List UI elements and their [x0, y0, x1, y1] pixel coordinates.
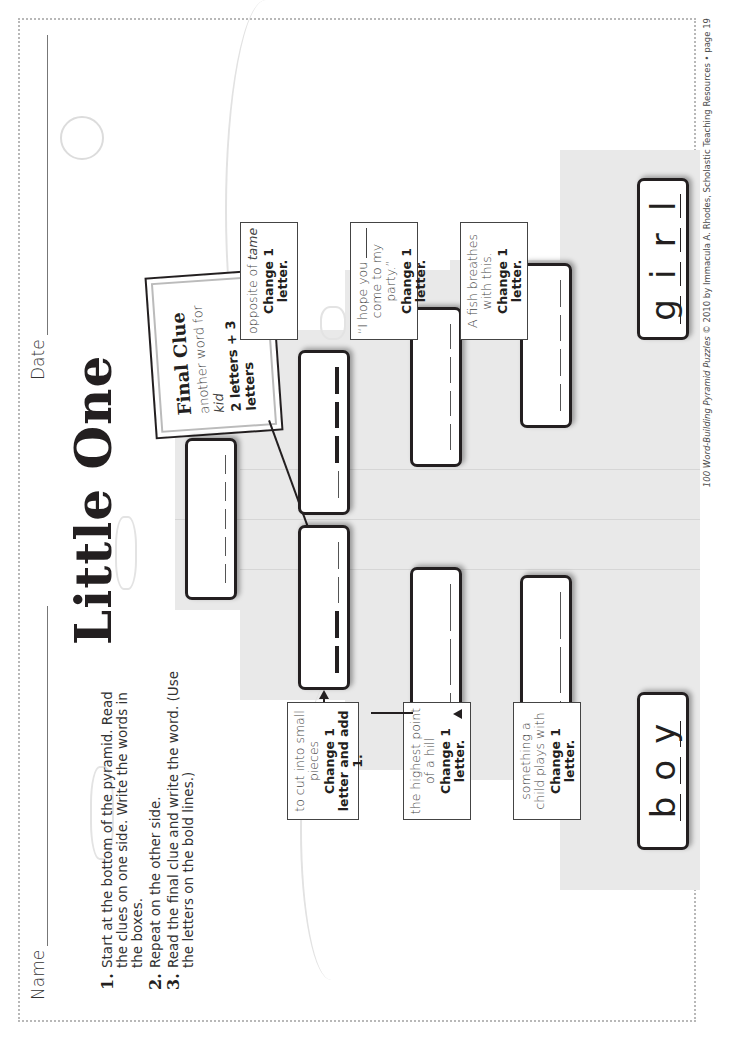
- sun-drawing: [60, 116, 104, 160]
- arrow-head-icon: [453, 709, 462, 719]
- letter-blank-bold: [335, 612, 339, 639]
- step-text: Repeat on the other side.: [148, 796, 163, 968]
- letter-blank: [338, 542, 339, 569]
- letter-blank: [225, 455, 226, 474]
- clue-text: “I hope you come to my party.”: [356, 227, 398, 335]
- start-letter: i: [646, 262, 681, 286]
- letter-blank-bold: [335, 367, 339, 394]
- name-line: [47, 606, 48, 946]
- start-letter: o: [646, 757, 681, 784]
- footer-book: 100 Word-Building Pyramid Puzzles: [702, 336, 712, 487]
- letter-blank: [560, 384, 561, 411]
- final-clue-text-emphasis: kid: [211, 393, 227, 413]
- letter-blank: [450, 358, 451, 384]
- clue-rule: Change 1 letter.: [400, 227, 428, 335]
- instruction-step: 1. Start at the bottom of the pyramid. R…: [100, 670, 145, 990]
- clue-box-right-row3: A fish breathes with this. Change 1 lett…: [460, 222, 528, 340]
- date-label: Date: [28, 339, 48, 380]
- instruction-step: 3. Read the final clue and write the wor…: [166, 670, 196, 990]
- letter-blank: [225, 509, 226, 528]
- letter-blank: [450, 391, 451, 417]
- start-letter: r: [646, 228, 681, 252]
- start-letter: b: [646, 794, 681, 822]
- letter-blank: [338, 471, 339, 498]
- letter-blank: [450, 639, 451, 686]
- connector-line-left-row2: [371, 713, 413, 715]
- answer-box-left-row1[interactable]: [298, 525, 350, 690]
- final-answer-box[interactable]: [185, 438, 237, 600]
- clue-box-left-row3: something a child plays with Change 1 le…: [513, 702, 581, 820]
- answer-box-right-row1[interactable]: [298, 350, 350, 515]
- clue-text-emphasis: tame: [245, 228, 260, 260]
- letter-blank-bold: [335, 646, 339, 673]
- start-word-left-boy: b o y: [637, 692, 689, 850]
- letter-blank: [560, 592, 561, 639]
- clue-rule: Change 1 letter.: [262, 227, 290, 335]
- footer-credit: 100 Word-Building Pyramid Puzzles © 2010…: [702, 18, 712, 1022]
- worksheet-page: Name Date Little One 1. Start at the bot…: [0, 0, 742, 1040]
- letter-blank-bold: [335, 437, 339, 464]
- start-letter: g: [646, 296, 681, 324]
- letter-blank: [450, 584, 451, 631]
- clue-box-right-row1: opposite of tame Change 1 letter.: [240, 222, 298, 340]
- inline-blank: [366, 228, 367, 258]
- clue-rule: Change 1 letter.: [549, 707, 577, 815]
- step-text: Start at the bottom of the pyramid. Read…: [100, 670, 145, 968]
- clue-box-right-row2: “I hope you come to my party.” Change 1 …: [350, 222, 418, 340]
- name-field[interactable]: Name: [28, 606, 48, 1000]
- pyramid-step-line: [175, 519, 700, 520]
- clue-text: to cut into small pieces: [293, 707, 321, 815]
- letter-blank: [225, 482, 226, 501]
- letter-blank: [338, 577, 339, 604]
- start-word-right-girl: g i r l: [637, 178, 689, 340]
- clue-box-left-row1: to cut into small pieces Change 1 letter…: [287, 702, 359, 820]
- step-number: 2.: [148, 968, 163, 990]
- step-number: 3.: [166, 968, 196, 990]
- clue-rule: Change 1 letter.: [439, 707, 467, 815]
- letter-blank: [225, 537, 226, 556]
- clue-box-left-row2: the highest point of a hill Change 1 let…: [403, 702, 471, 820]
- clue-text-part: “I hope you: [355, 262, 370, 334]
- letter-blank: [450, 324, 451, 350]
- step-text: Read the final clue and write the word. …: [166, 670, 196, 968]
- letter-blank-bold: [335, 402, 339, 429]
- letter-blank: [560, 647, 561, 694]
- clue-text-part: opposite of: [245, 260, 260, 334]
- date-line: [47, 35, 48, 335]
- clue-text: something a child plays with: [519, 707, 547, 815]
- instruction-step: 2. Repeat on the other side.: [148, 670, 163, 990]
- page-title: Little One: [64, 355, 123, 645]
- footer-credit-text: © 2010 by Immacula A. Rhodes, Scholastic…: [702, 18, 712, 336]
- clue-rule: Change 1 letter.: [496, 227, 524, 335]
- clue-rule: Change 1 letter and add 1.: [323, 707, 365, 815]
- clue-text: the highest point of a hill: [409, 707, 437, 815]
- arrow-head-icon: [319, 690, 329, 699]
- step-number: 1.: [100, 968, 145, 990]
- letter-blank: [560, 280, 561, 307]
- cloud-drawing: [320, 306, 346, 340]
- letter-blank: [560, 350, 561, 377]
- letter-blank: [560, 315, 561, 342]
- letter-blank: [225, 564, 226, 583]
- date-field[interactable]: Date: [28, 35, 48, 380]
- clue-text-part: come to my party.”: [369, 244, 398, 318]
- start-letter: l: [646, 194, 681, 218]
- start-letter: y: [646, 721, 681, 747]
- letter-blank: [450, 425, 451, 451]
- name-label: Name: [28, 950, 48, 1000]
- clue-text: opposite of tame: [246, 227, 260, 335]
- clue-text: A fish breathes with this.: [466, 227, 494, 335]
- instructions-list: 1. Start at the bottom of the pyramid. R…: [100, 670, 199, 990]
